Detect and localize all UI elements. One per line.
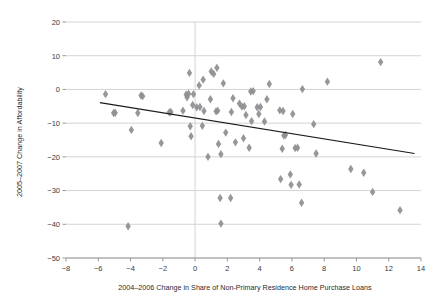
- data-point: [256, 110, 261, 118]
- y-tick-label: −20: [47, 153, 60, 162]
- data-point: [288, 170, 293, 178]
- x-tick-label: 4: [258, 264, 262, 273]
- data-point: [180, 106, 185, 114]
- data-point: [229, 108, 234, 116]
- y-tick-label: −10: [47, 119, 60, 128]
- data-point: [300, 85, 305, 93]
- chart-canvas: −8−6−4−202468101214 20100−10−20−30−40−50…: [0, 0, 443, 304]
- data-point: [135, 109, 140, 117]
- data-point: [214, 64, 219, 72]
- x-tick-label: 2: [225, 264, 229, 273]
- data-point: [258, 103, 263, 111]
- data-point: [205, 153, 210, 161]
- x-tick-label: 8: [322, 264, 326, 273]
- data-point: [299, 199, 304, 207]
- data-point: [280, 145, 285, 153]
- y-axis-title: 2005–2007 Change in Affordability: [15, 87, 24, 197]
- data-point: [200, 75, 205, 83]
- data-point: [208, 95, 213, 103]
- data-point: [103, 90, 108, 98]
- y-tick-label: 20: [52, 18, 60, 27]
- y-tick-label: 10: [52, 52, 60, 61]
- data-point: [361, 169, 366, 177]
- scatter-chart-figure: −8−6−4−202468101214 20100−10−20−30−40−50…: [0, 0, 443, 304]
- data-point: [187, 69, 192, 77]
- data-point: [230, 94, 235, 102]
- data-point: [397, 206, 402, 214]
- data-point: [129, 126, 134, 134]
- data-point: [218, 219, 223, 227]
- data-point: [264, 95, 269, 103]
- data-point: [221, 79, 226, 87]
- x-tick-label: −8: [62, 264, 71, 273]
- x-tick-label: 12: [385, 264, 393, 273]
- data-point: [278, 175, 283, 183]
- x-tick-label: 6: [290, 264, 294, 273]
- data-point: [159, 139, 164, 147]
- data-point: [217, 194, 222, 202]
- x-tick-label: −6: [94, 264, 103, 273]
- x-tick-label: 0: [193, 264, 197, 273]
- data-point: [223, 128, 228, 136]
- data-point: [290, 110, 295, 118]
- data-point: [378, 58, 383, 66]
- data-point: [288, 181, 293, 189]
- data-point: [262, 117, 267, 125]
- data-point: [241, 134, 246, 142]
- data-point: [216, 140, 221, 148]
- data-point: [311, 120, 316, 128]
- x-axis-title: 2004–2006 Change in Share of Non-Primary…: [118, 283, 372, 292]
- data-point: [197, 103, 202, 111]
- data-point: [188, 132, 193, 140]
- data-point: [249, 117, 254, 125]
- data-point: [246, 144, 251, 152]
- data-point: [296, 180, 301, 188]
- x-tick-label: 14: [417, 264, 425, 273]
- y-tick-label: −50: [47, 254, 60, 263]
- y-tick-label: 0: [56, 85, 60, 94]
- data-point: [267, 80, 272, 88]
- data-point: [370, 188, 375, 196]
- x-tick-label: −4: [126, 264, 135, 273]
- x-axis: [63, 22, 422, 262]
- data-point: [228, 194, 233, 202]
- y-tick-label: −40: [47, 220, 60, 229]
- data-point: [280, 107, 285, 115]
- data-point: [243, 111, 248, 119]
- x-tick-labels: −8−6−4−202468101214: [62, 264, 425, 273]
- data-point: [233, 138, 238, 146]
- data-point: [348, 165, 353, 173]
- x-tick-label: 10: [352, 264, 360, 273]
- x-tick-label: −2: [159, 264, 168, 273]
- data-point: [201, 107, 206, 115]
- data-point: [325, 77, 330, 85]
- y-tick-labels: 20100−10−20−30−40−50: [47, 18, 60, 263]
- y-tick-label: −30: [47, 186, 60, 195]
- data-point: [125, 222, 130, 230]
- data-point: [196, 81, 201, 89]
